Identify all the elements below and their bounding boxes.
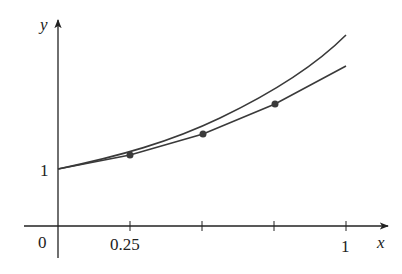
x-tick-label-1: 1	[341, 237, 350, 256]
euler-approximation	[58, 66, 346, 169]
exact-curve	[58, 35, 346, 169]
origin-label: 0	[38, 233, 47, 252]
chart: y x 0 1 0.25 1	[0, 0, 402, 274]
y-tick-label-1: 1	[40, 161, 49, 180]
x-tick-label-025: 0.25	[110, 235, 140, 254]
y-axis-label: y	[38, 15, 48, 34]
x-axis-label: x	[376, 233, 385, 252]
